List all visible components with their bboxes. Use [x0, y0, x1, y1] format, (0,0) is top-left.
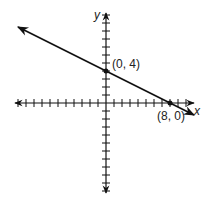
point-marker — [104, 69, 109, 74]
x-axis-label: x — [193, 104, 201, 118]
y-axis-label: y — [93, 8, 101, 22]
point-label: (8, 0) — [157, 109, 185, 123]
point-label: (0, 4) — [112, 57, 140, 71]
coordinate-plane: (0, 4)(8, 0) x y — [0, 0, 205, 199]
point-marker — [168, 101, 173, 106]
